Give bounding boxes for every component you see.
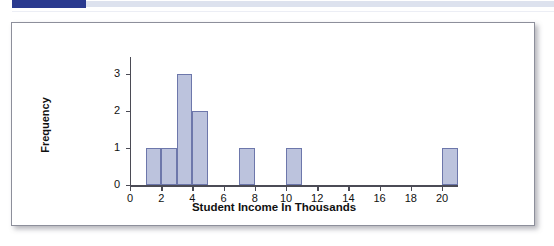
x-tick-mark: [380, 187, 381, 191]
top-rule-accent-band: [12, 0, 86, 8]
decorative-top-rule: [0, 0, 554, 12]
y-tick-mark: [126, 148, 130, 149]
y-tick-label: 3: [104, 67, 120, 79]
x-tick-mark: [442, 187, 443, 191]
figure-panel: Frequency Student Income In Thousands 01…: [11, 22, 535, 226]
y-tick-mark: [126, 111, 130, 112]
y-axis-title: Frequency: [39, 70, 51, 180]
y-axis-line: [130, 57, 131, 185]
x-axis-line: [130, 185, 458, 187]
x-tick-label: 18: [399, 192, 423, 204]
x-tick-label: 8: [243, 192, 267, 204]
y-tick-label: 0: [104, 178, 120, 190]
x-tick-label: 12: [305, 192, 329, 204]
x-tick-label: 20: [430, 192, 454, 204]
x-tick-mark: [161, 187, 162, 191]
x-tick-label: 2: [149, 192, 173, 204]
x-tick-label: 16: [368, 192, 392, 204]
histogram-plot-area: Frequency Student Income In Thousands 01…: [12, 23, 536, 227]
histogram-bar: [192, 111, 208, 185]
histogram-bar: [146, 148, 162, 185]
histogram-bar: [239, 148, 255, 185]
y-tick-label: 1: [104, 141, 120, 153]
x-tick-mark: [348, 187, 349, 191]
histogram-bar: [442, 148, 458, 185]
x-tick-mark: [224, 187, 225, 191]
x-tick-mark: [192, 187, 193, 191]
x-tick-label: 10: [274, 192, 298, 204]
x-tick-label: 6: [212, 192, 236, 204]
y-tick-mark: [126, 74, 130, 75]
x-tick-mark: [255, 187, 256, 191]
x-tick-label: 0: [118, 192, 142, 204]
x-tick-mark: [130, 187, 131, 191]
histogram-bar: [161, 148, 177, 185]
top-rule-hairline: [12, 11, 554, 12]
x-tick-mark: [286, 187, 287, 191]
x-tick-mark: [317, 187, 318, 191]
top-rule-light-band: [12, 1, 554, 7]
x-tick-label: 14: [336, 192, 360, 204]
histogram-bar: [177, 74, 193, 185]
x-tick-mark: [411, 187, 412, 191]
y-tick-label: 2: [104, 104, 120, 116]
histogram-bar: [286, 148, 302, 185]
x-tick-label: 4: [180, 192, 204, 204]
